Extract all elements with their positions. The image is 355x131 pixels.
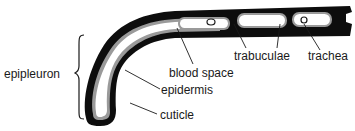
label-trabuculae: trabuculae: [234, 50, 290, 62]
label-blood-space: blood space: [169, 67, 234, 79]
label-epidermis: epidermis: [161, 84, 213, 96]
chamber-2-inner: [239, 15, 285, 26]
epipleuron-brace: [75, 35, 84, 119]
chamber-3-inner: [294, 14, 330, 25]
label-cuticle: cuticle: [160, 109, 194, 121]
label-epipleuron: epipleuron: [4, 68, 60, 80]
label-trachea: trachea: [308, 50, 348, 62]
elytron-cross-section-diagram: epipleuron blood space epidermis cuticle…: [0, 0, 355, 131]
chamber-1-inner: [180, 19, 228, 28]
